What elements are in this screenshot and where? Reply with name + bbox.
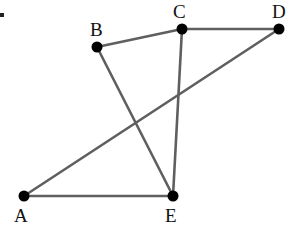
vertex-label-e: E (165, 205, 177, 226)
edge-b-c (97, 29, 182, 47)
vertex-a (19, 191, 30, 202)
vertex-b (92, 42, 103, 53)
vertex-label-a: A (14, 205, 28, 226)
vertex-d (274, 24, 285, 35)
vertex-e (168, 191, 179, 202)
edge-b-e (97, 47, 173, 196)
edges-group (24, 29, 279, 196)
graph-svg: ABCDE (0, 0, 300, 229)
corner-artifact (0, 13, 4, 17)
graph-diagram: ABCDE (0, 0, 300, 229)
vertex-label-b: B (90, 19, 103, 40)
edge-c-e (173, 29, 182, 196)
vertex-label-d: D (272, 1, 286, 22)
vertex-label-c: C (173, 1, 186, 22)
vertex-c (177, 24, 188, 35)
edge-a-d (24, 29, 279, 196)
